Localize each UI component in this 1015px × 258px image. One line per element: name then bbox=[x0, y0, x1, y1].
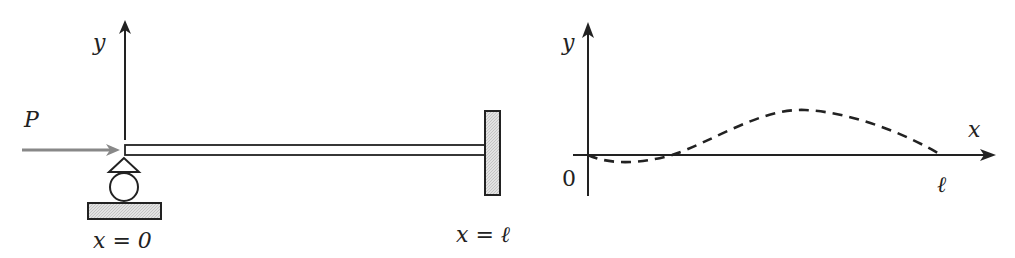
deflection-plot: y x 0 ℓ bbox=[561, 22, 996, 197]
beam-figure: y P x = 0 x = ℓ bbox=[22, 20, 511, 253]
fixed-wall bbox=[485, 111, 500, 195]
end-label: ℓ bbox=[937, 172, 947, 197]
plot-y-axis bbox=[582, 22, 594, 196]
plot-x-label: x bbox=[968, 117, 981, 142]
force-arrow bbox=[22, 144, 120, 156]
left-end-label: x = 0 bbox=[93, 228, 152, 253]
y-axis bbox=[119, 20, 131, 140]
plot-y-label: y bbox=[561, 30, 575, 55]
beam bbox=[125, 145, 485, 155]
force-label: P bbox=[23, 107, 40, 132]
y-axis-label: y bbox=[92, 30, 106, 55]
roller-support bbox=[88, 158, 161, 219]
right-end-label: x = ℓ bbox=[456, 222, 511, 247]
diagram-canvas: y P x = 0 x = ℓ y x bbox=[0, 0, 1015, 258]
origin-label: 0 bbox=[562, 166, 576, 191]
